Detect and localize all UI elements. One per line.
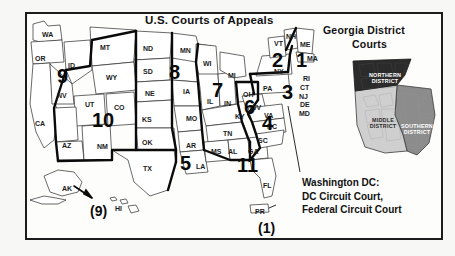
state-label-ok: OK [142,139,153,146]
state-label-ms: MS [211,148,222,155]
state-label-md: MD [299,110,310,117]
inset-title-line1: Georgia District [323,24,405,36]
dc-annotation-line3: Federal Circuit Court [302,203,401,217]
state-label-tx: TX [143,165,152,172]
state-label-al: AL [228,148,237,155]
circuit-number-10: 10 [92,110,114,130]
state-label-co: CO [114,104,125,111]
state-label-ma: MA [307,55,318,62]
state-label-vt: VT [274,40,283,47]
state-label-ut: UT [85,101,94,108]
state-label-mn: MN [180,47,191,54]
state-label-de: DE [300,101,310,108]
washington-dc-annotation: Washington DC: DC Circuit Court, Federal… [302,176,401,217]
state-label-hi: HI [115,205,122,212]
state-label-ri: RI [303,75,310,82]
circuit-number-8: 8 [169,62,180,82]
dc-annotation-line1: Washington DC: [302,176,401,190]
circuit-number-2: 2 [272,50,283,70]
circuit-number-4: 4 [262,113,273,133]
state-label-ks: KS [142,116,152,123]
state-label-me: ME [300,41,311,48]
georgia-district-courts-inset: NORTHERNDISTRICT MIDDLEDISTRICT SOUTHERN… [345,55,441,160]
state-label-pr: PR [255,208,265,215]
georgia-southern-district-label: SOUTHERNDISTRICT [395,123,439,135]
state-label-mo: MO [186,115,197,122]
circuit-number-7: 7 [212,80,223,100]
circuit-number-6: 6 [244,97,255,117]
circuit-number-11: 11 [237,155,258,175]
state-label-nj: NJ [299,93,308,100]
state-label-id: ID [68,62,75,69]
state-label-ct: CT [300,84,309,91]
inset-title-line2: Courts [352,38,387,50]
state-label-ca: CA [35,120,45,127]
page-title: U.S. Courts of Appeals [145,14,274,26]
circuit-number-5: 5 [180,153,191,173]
state-label-or: OR [35,55,46,62]
state-label-nh: NH [286,33,296,40]
state-label-ia: IA [183,88,190,95]
scanned-map-page: U.S. Courts of Appeals Georgia District … [0,0,455,256]
georgia-inset-map [345,55,441,160]
state-label-fl: FL [263,182,272,189]
state-label-ar: AR [186,142,196,149]
state-label-ak: AK [62,185,72,192]
state-label-mt: MT [100,44,110,51]
state-label-nv: NV [57,92,67,99]
offshore-circuit-1: (1) [258,220,275,236]
circuit-number-3: 3 [282,82,293,102]
georgia-northern-district-label: NORTHERNDISTRICT [357,72,413,84]
dc-annotation-line2: DC Circuit Court, [302,190,401,204]
state-label-wi: WI [203,60,212,67]
state-label-tn: TN [223,130,232,137]
state-label-ne: NE [145,90,155,97]
state-label-wy: WY [106,74,117,81]
state-label-sd: SD [143,68,153,75]
state-label-in: IN [224,100,231,107]
state-label-nd: ND [143,45,153,52]
state-label-pa: PA [263,85,272,92]
state-label-wa: WA [42,31,53,38]
state-label-az: AZ [62,142,71,149]
state-label-nm: NM [97,143,108,150]
state-label-mi: MI [228,72,236,79]
offshore-circuit-9: (9) [90,203,107,219]
circuit-number-9: 9 [57,66,68,86]
state-label-sc: SC [258,137,268,144]
state-label-la: LA [196,163,205,170]
circuit-number-1: 1 [296,50,307,70]
